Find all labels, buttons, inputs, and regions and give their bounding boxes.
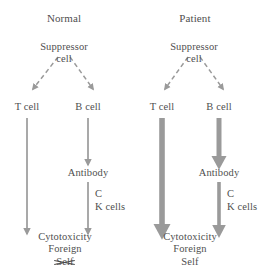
- normal-panel-arrows: [27, 57, 93, 234]
- cofactor-complement-patient: C: [227, 188, 270, 201]
- node-b-cell-normal: B cell: [65, 101, 111, 113]
- outcome-foreign-patient: Foreign: [143, 243, 237, 255]
- outcome-self-normal-wrapper: Self: [18, 256, 112, 268]
- immune-response-diagram: Normal Suppressor cell T cell B cell Ant…: [0, 0, 270, 273]
- panel-title-patient: Patient: [150, 12, 240, 24]
- outcome-self-normal-struck: Self: [56, 256, 73, 268]
- cofactor-group-patient: C K cells: [227, 188, 270, 214]
- outcome-cytotoxicity-normal: Cytotoxicity: [18, 231, 112, 243]
- outcome-foreign-normal: Foreign: [18, 243, 112, 255]
- outcome-group-patient: Cytotoxicity Foreign Self: [143, 231, 237, 268]
- patient-panel-arrows: [162, 57, 223, 233]
- cofactor-group-normal: C K cells: [95, 188, 151, 214]
- node-antibody-normal: Antibody: [58, 167, 118, 179]
- node-suppressor-cell-normal: Suppressor cell: [19, 41, 109, 64]
- suppressor-label-line1-patient: Suppressor: [149, 41, 239, 53]
- node-b-cell-patient: B cell: [196, 101, 242, 113]
- node-t-cell-patient: T cell: [139, 101, 185, 113]
- node-antibody-patient: Antibody: [189, 167, 249, 179]
- node-t-cell-normal: T cell: [4, 101, 50, 113]
- outcome-cytotoxicity-patient: Cytotoxicity: [143, 231, 237, 243]
- cofactor-complement-normal: C: [95, 188, 151, 201]
- suppressor-label-line2: cell: [19, 53, 109, 65]
- outcome-group-normal: Cytotoxicity Foreign Self: [18, 231, 112, 268]
- outcome-self-patient: Self: [143, 256, 237, 268]
- node-suppressor-cell-patient: Suppressor cell: [149, 41, 239, 64]
- suppressor-label-line1: Suppressor: [19, 41, 109, 53]
- suppressor-label-line2-patient: cell: [149, 53, 239, 65]
- cofactor-k-cells-normal: K cells: [95, 201, 151, 214]
- cofactor-k-cells-patient: K cells: [227, 201, 270, 214]
- panel-title-normal: Normal: [19, 12, 109, 24]
